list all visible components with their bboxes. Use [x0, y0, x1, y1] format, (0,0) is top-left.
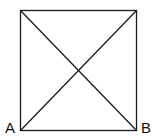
square-diagram: A B: [0, 0, 159, 139]
vertex-label-a: A: [5, 119, 15, 136]
vertex-label-b: B: [141, 119, 151, 136]
